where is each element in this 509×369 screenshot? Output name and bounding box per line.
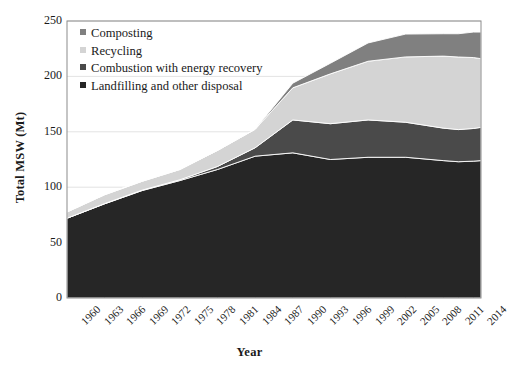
legend-label: Recycling xyxy=(91,43,142,57)
legend-swatch-icon xyxy=(80,82,86,88)
legend-label: Composting xyxy=(91,26,153,40)
legend-label: Combustion with energy recovery xyxy=(91,61,263,75)
y-axis-tick-label: 0 xyxy=(22,291,62,303)
legend-swatch-icon xyxy=(80,29,86,35)
legend-item[interactable]: Landfilling and other disposal xyxy=(80,79,242,92)
legend-swatch-icon xyxy=(80,47,86,53)
y-axis-tick-label: 200 xyxy=(22,69,62,81)
y-axis-tick-label: 50 xyxy=(22,236,62,248)
y-axis-tick-label: 250 xyxy=(22,14,62,26)
legend-swatch-icon xyxy=(80,64,86,70)
y-axis-tick-labels: 250200150100500 xyxy=(22,0,62,369)
x-axis-title: Year xyxy=(0,345,499,360)
legend-item[interactable]: Composting xyxy=(80,26,153,39)
legend-item[interactable]: Recycling xyxy=(80,44,142,57)
legend-item[interactable]: Combustion with energy recovery xyxy=(80,61,263,74)
y-axis-tick-label: 150 xyxy=(22,125,62,137)
legend-label: Landfilling and other disposal xyxy=(91,78,242,92)
y-axis-tick-label: 100 xyxy=(22,180,62,192)
